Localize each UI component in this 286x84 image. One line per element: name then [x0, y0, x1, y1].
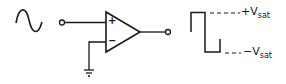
square-wave-icon — [191, 13, 220, 53]
output-terminal — [166, 30, 171, 35]
sine-wave-icon — [16, 10, 42, 32]
ground-icon — [84, 70, 94, 76]
pos-sat-label: +Vsat — [241, 6, 270, 20]
input-terminal — [60, 20, 65, 25]
noninverting-pin-label: + — [108, 16, 116, 26]
neg-sat-label: −Vsat — [243, 46, 272, 60]
inverting-pin-label: − — [108, 36, 116, 46]
inverting-wire — [89, 42, 106, 70]
